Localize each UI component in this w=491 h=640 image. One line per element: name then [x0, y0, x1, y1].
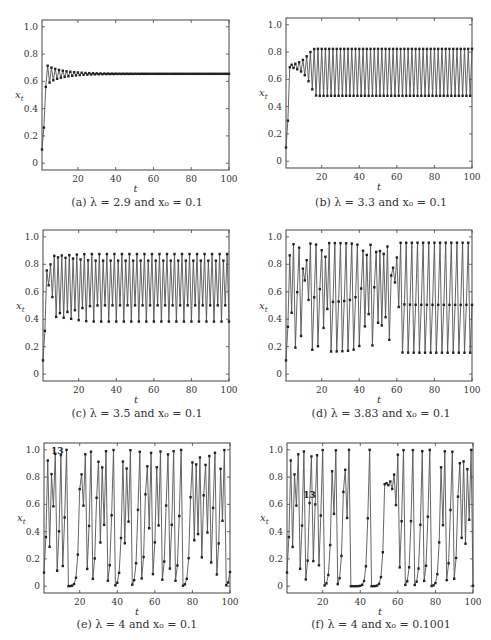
annotation-label: 13 — [303, 490, 316, 500]
data-point-marker — [453, 578, 455, 580]
data-point-marker — [438, 541, 440, 543]
data-point-marker — [333, 513, 335, 515]
data-point-marker — [290, 459, 292, 461]
data-point-marker — [451, 451, 453, 453]
data-point-marker — [427, 516, 429, 518]
data-point-marker — [331, 470, 333, 472]
data-point-marker — [389, 480, 391, 482]
data-point-marker — [470, 449, 472, 451]
data-point-marker — [365, 565, 367, 567]
data-point-marker — [408, 566, 410, 568]
data-point-marker — [293, 473, 295, 475]
data-point-marker — [440, 466, 442, 468]
data-point-marker — [340, 555, 342, 557]
y-tick-label: 0.8 — [269, 472, 284, 482]
data-point-marker — [406, 580, 408, 582]
data-point-marker — [395, 504, 397, 506]
data-point-marker — [297, 453, 299, 455]
y-tick-label: 0.2 — [269, 554, 283, 564]
data-point-marker — [361, 584, 363, 586]
data-point-marker — [329, 544, 331, 546]
data-point-marker — [464, 542, 466, 544]
data-point-marker — [382, 551, 384, 553]
data-point-marker — [402, 449, 404, 451]
data-point-marker — [310, 455, 312, 457]
data-point-marker — [335, 449, 337, 451]
y-axis-label: xt — [260, 512, 269, 526]
data-point-marker — [404, 584, 406, 586]
data-point-marker — [423, 580, 425, 582]
series-line — [287, 450, 473, 586]
data-point-marker — [299, 568, 301, 570]
data-point-marker — [429, 449, 431, 451]
data-point-marker — [412, 449, 414, 451]
data-point-marker — [442, 524, 444, 526]
data-point-marker — [301, 524, 303, 526]
data-point-marker — [397, 454, 399, 456]
y-tick-label: 0.6 — [269, 499, 284, 509]
data-point-marker — [327, 574, 329, 576]
data-point-marker — [363, 580, 365, 582]
data-point-marker — [338, 577, 340, 579]
data-point-marker — [342, 491, 344, 493]
x-tick-label: 60 — [392, 597, 404, 607]
data-point-marker — [321, 449, 323, 451]
data-point-marker — [449, 509, 451, 511]
data-point-marker — [466, 468, 468, 470]
data-point-marker — [410, 520, 412, 522]
data-point-marker — [303, 450, 305, 452]
data-point-marker — [344, 469, 346, 471]
x-tick-label: 100 — [464, 597, 481, 607]
x-tick-label: 80 — [430, 597, 442, 607]
data-point-marker — [288, 536, 290, 538]
data-point-marker — [316, 454, 318, 456]
data-point-marker — [337, 583, 339, 585]
y-tick-label: 0.4 — [269, 527, 284, 537]
data-point-marker — [312, 560, 314, 562]
y-tick-label: 0 — [277, 581, 283, 591]
data-point-marker — [295, 504, 297, 506]
data-point-marker — [367, 517, 369, 519]
data-point-marker — [391, 488, 393, 490]
x-axis-label: t — [378, 606, 383, 617]
data-point-marker — [291, 546, 293, 548]
data-point-marker — [434, 582, 436, 584]
data-point-marker — [399, 566, 401, 568]
x-tick-label: 20 — [317, 597, 329, 607]
data-point-marker — [400, 520, 402, 522]
data-point-marker — [378, 583, 380, 585]
line-chart-f: 00.20.40.60.81.020406080100txt13 — [0, 0, 491, 640]
data-point-marker — [472, 585, 474, 587]
data-point-marker — [308, 502, 310, 504]
data-point-marker — [425, 565, 427, 567]
data-point-marker — [455, 557, 457, 559]
data-point-marker — [325, 582, 327, 584]
data-point-marker — [387, 484, 389, 486]
caption-f: (f) λ = 4 and x₀ = 0.1001 — [286, 618, 476, 631]
data-point-marker — [457, 495, 459, 497]
data-point-marker — [447, 562, 449, 564]
data-point-marker — [445, 579, 447, 581]
data-point-marker — [380, 576, 382, 578]
data-point-marker — [461, 537, 463, 539]
data-point-marker — [368, 449, 370, 451]
data-point-marker — [417, 567, 419, 569]
data-point-marker — [444, 450, 446, 452]
y-tick-label: 1.0 — [269, 445, 284, 455]
data-point-marker — [415, 580, 417, 582]
data-point-marker — [393, 473, 395, 475]
data-point-marker — [348, 449, 350, 451]
data-point-marker — [318, 564, 320, 566]
data-point-marker — [323, 584, 325, 586]
data-point-marker — [468, 519, 470, 521]
data-point-marker — [419, 524, 421, 526]
data-point-marker — [432, 584, 434, 586]
data-point-marker — [462, 460, 464, 462]
data-point-marker — [320, 514, 322, 516]
x-tick-label: 40 — [355, 597, 367, 607]
data-point-marker — [314, 503, 316, 505]
data-point-marker — [346, 517, 348, 519]
data-point-marker — [414, 584, 416, 586]
data-point-marker — [305, 578, 307, 580]
data-point-marker — [436, 573, 438, 575]
